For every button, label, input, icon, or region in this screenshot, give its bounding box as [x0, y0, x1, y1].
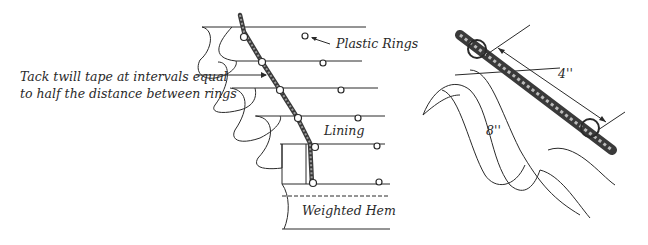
ring-icon	[295, 115, 302, 122]
plastic-ring-icon	[374, 143, 380, 149]
plastic-ring-icon	[376, 179, 382, 185]
fold-depth-dimension: 8''	[486, 123, 501, 138]
ring-icon	[310, 180, 317, 187]
plastic-ring-icon	[302, 33, 308, 39]
plastic-ring-icon	[338, 87, 344, 93]
tack-annotation-line1: Tack twill tape at intervals equal	[20, 69, 228, 84]
ring-icon	[241, 34, 248, 41]
ring-icon	[312, 144, 319, 151]
plastic-ring-icon	[320, 60, 326, 66]
ring-spacing-dimension: 4''	[557, 66, 573, 81]
ring-icon	[259, 59, 266, 66]
plastic-rings-label: Plastic Rings	[335, 36, 418, 51]
plastic-ring-icon	[355, 115, 361, 121]
roman-shade-diagram: Tack twill tape at intervals equal to ha…	[0, 0, 648, 245]
tack-annotation-line2: to half the distance between rings	[20, 86, 237, 101]
ring-icon	[277, 87, 284, 94]
lining-label: Lining	[323, 123, 364, 138]
right-panel-drawing	[423, 25, 625, 218]
weighted-hem-label: Weighted Hem	[302, 203, 396, 218]
